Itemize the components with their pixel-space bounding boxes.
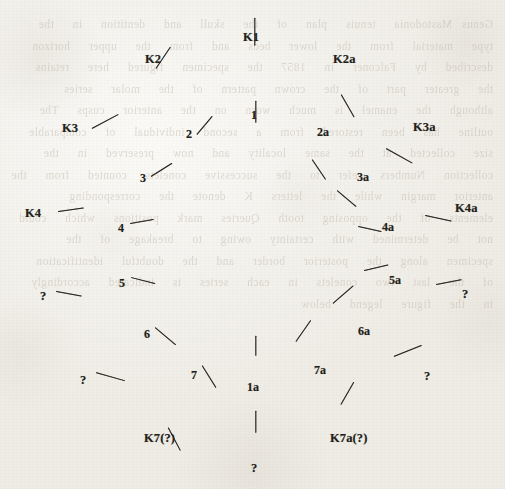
marker-label-k4: K4 xyxy=(25,207,41,220)
marker-label-2: 2 xyxy=(186,128,192,140)
marker-label-5a: 5a xyxy=(389,274,401,286)
marker-label-7a: 7a xyxy=(314,364,326,376)
marker-label-2a: 2a xyxy=(317,126,329,138)
marker-label-7: 7 xyxy=(191,369,197,381)
marker-label-k3: K3 xyxy=(62,122,78,135)
marker-label-k3a: K3a xyxy=(413,121,436,134)
marker-label-6a: 6a xyxy=(358,325,370,337)
marker-label-q-b: ? xyxy=(251,462,257,475)
marker-label-3a: 3a xyxy=(357,171,369,183)
marker-label-3: 3 xyxy=(140,172,146,184)
marker-label-q-l2: ? xyxy=(80,374,86,387)
marker-label-5: 5 xyxy=(119,277,125,289)
marker-label-k7a: K7a(?) xyxy=(330,432,367,445)
marker-label-q-r2: ? xyxy=(424,370,430,383)
marker-label-4a: 4a xyxy=(382,221,394,233)
marker-label-k2a: K2a xyxy=(333,53,356,66)
marker-label-6: 6 xyxy=(144,328,150,340)
marker-label-1a: 1a xyxy=(247,381,259,393)
marker-label-q-r1: ? xyxy=(462,288,468,301)
marker-label-k4a: K4a xyxy=(455,202,478,215)
marker-label-q-l1: ? xyxy=(40,290,46,303)
paper-grain-texture xyxy=(0,0,505,489)
marker-label-4: 4 xyxy=(118,222,124,234)
marker-label-k1: K1 xyxy=(243,31,259,44)
figure-canvas: Genus Mastodonia tenuis plan of the skul… xyxy=(0,0,505,489)
